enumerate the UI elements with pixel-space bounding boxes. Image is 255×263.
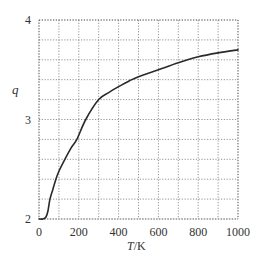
- grid-lines: [39, 20, 238, 219]
- x-tick-label: 200: [70, 225, 88, 239]
- x-tick-label: 0: [36, 225, 42, 239]
- y-tick-label: 2: [25, 212, 31, 226]
- x-tick-labels: 02004006008001000: [36, 225, 250, 239]
- x-tick-label: 400: [110, 225, 128, 239]
- x-tick-label: 1000: [226, 225, 250, 239]
- y-tick-labels: 234: [25, 13, 31, 226]
- x-tick-label: 800: [189, 225, 207, 239]
- y-tick-label: 4: [25, 13, 31, 27]
- y-tick-label: 3: [25, 113, 31, 127]
- x-axis-label: T/K: [127, 239, 146, 253]
- x-tick-label: 600: [149, 225, 167, 239]
- chart: 02004006008001000 234 q T/K: [0, 0, 255, 263]
- y-axis-label: q: [12, 82, 19, 97]
- x-axis-label-unit: /K: [134, 239, 146, 253]
